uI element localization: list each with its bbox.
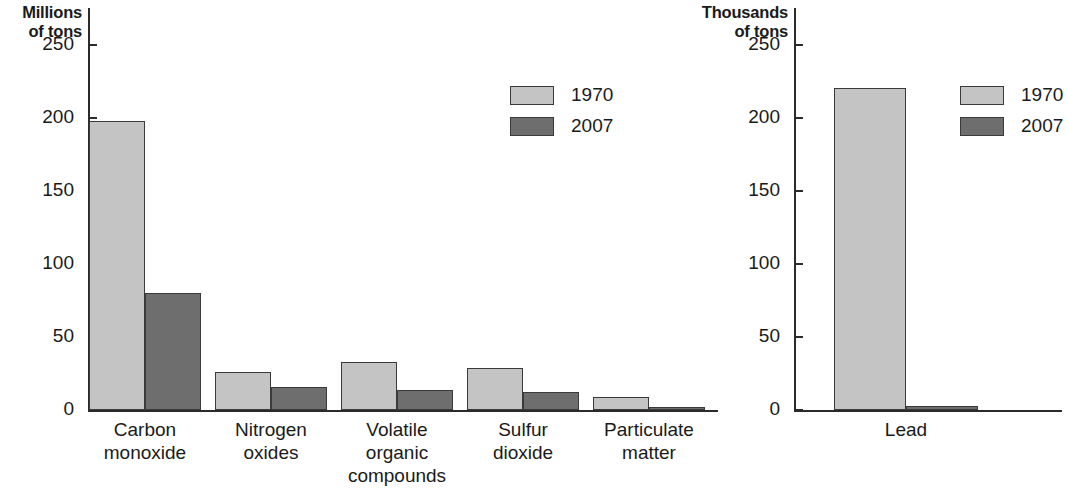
legend-label-1970: 1970 <box>571 84 613 106</box>
bar-2007-0 <box>145 293 201 410</box>
category-label-2: Volatile organic compounds <box>334 418 460 487</box>
y-tick-label: 250 <box>748 33 780 55</box>
plot-area-right: 050100150200250 <box>794 8 1062 412</box>
category-label-0: Lead <box>772 418 1040 441</box>
bars-layer-right <box>794 8 1062 410</box>
legend-label-2007: 2007 <box>1021 115 1063 137</box>
bar-2007-0 <box>906 406 978 410</box>
bar-2007-1 <box>271 387 327 410</box>
y-tick-label: 0 <box>769 398 780 420</box>
legend-swatch-2007 <box>510 117 554 136</box>
category-label-1: Nitrogen oxides <box>208 418 334 464</box>
x-axis-line-left <box>88 410 718 412</box>
category-label-0: Carbon monoxide <box>82 418 208 464</box>
chart-panel-millions-of-tons: Millions of tons 050100150200250 Carbon … <box>0 0 730 495</box>
y-tick-label: 100 <box>748 252 780 274</box>
bar-2007-3 <box>523 392 579 410</box>
bar-2007-2 <box>397 390 453 410</box>
air-pollutant-emissions-figure: Millions of tons 050100150200250 Carbon … <box>0 0 1067 495</box>
legend-item-1970: 1970 <box>960 84 1063 106</box>
y-axis-title-left-line1: Millions <box>22 3 82 21</box>
y-tick-label: 200 <box>748 106 780 128</box>
y-axis-title-right-line1: Thousands <box>702 3 788 21</box>
legend-item-2007: 2007 <box>960 115 1063 137</box>
legend-swatch-1970 <box>960 86 1004 105</box>
y-tick-label: 50 <box>53 325 74 347</box>
y-tick-label: 250 <box>42 33 74 55</box>
legend-label-2007: 2007 <box>571 115 613 137</box>
y-tick-label: 100 <box>42 252 74 274</box>
y-tick-label: 200 <box>42 106 74 128</box>
bar-1970-0 <box>834 88 906 410</box>
legend-item-2007: 2007 <box>510 115 613 137</box>
legend-swatch-2007 <box>960 117 1004 136</box>
category-label-3: Sulfur dioxide <box>460 418 586 464</box>
bar-1970-3 <box>467 368 523 410</box>
legend-label-1970: 1970 <box>1021 84 1063 106</box>
bar-1970-2 <box>341 362 397 410</box>
bars-layer-left <box>88 8 718 410</box>
legend-item-1970: 1970 <box>510 84 613 106</box>
x-axis-line-right <box>794 410 1062 412</box>
legend-left: 19702007 <box>510 84 613 146</box>
legend-right: 19702007 <box>960 84 1063 146</box>
bar-1970-0 <box>89 121 145 410</box>
y-tick-label: 50 <box>759 325 780 347</box>
bar-1970-1 <box>215 372 271 410</box>
legend-swatch-1970 <box>510 86 554 105</box>
y-tick-label: 0 <box>63 398 74 420</box>
y-tick-label: 150 <box>748 179 780 201</box>
y-tick-label: 150 <box>42 179 74 201</box>
chart-panel-thousands-of-tons: Thousands of tons 050100150200250 Lead 1… <box>660 0 1067 495</box>
bar-1970-4 <box>593 397 649 410</box>
plot-area-left: 050100150200250 <box>88 8 718 412</box>
